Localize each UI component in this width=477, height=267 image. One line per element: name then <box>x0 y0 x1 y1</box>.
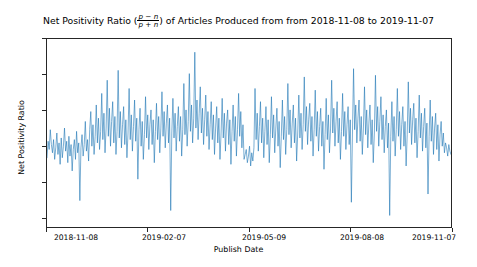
xtick-mark-4 <box>452 228 453 232</box>
xtick-label-0: 2018-11-08 <box>54 233 98 242</box>
xtick-label-1: 2019-02-07 <box>142 233 186 242</box>
xtick-mark-1 <box>147 228 148 232</box>
ytick-mark-1 <box>42 74 46 75</box>
xtick-mark-2 <box>249 228 250 232</box>
chart-title: Net Positivity Ratio (p − np + n) of Art… <box>0 13 477 29</box>
ytick-mark-4 <box>42 182 46 183</box>
x-axis-label: Publish Date <box>0 245 477 254</box>
y-axis-label: Net Positivity Ratio <box>17 73 26 203</box>
xtick-label-3: 2019-08-08 <box>340 233 384 242</box>
ytick-mark-5 <box>42 218 46 219</box>
xtick-label-2: 2019-05-09 <box>242 233 286 242</box>
ytick-mark-0 <box>42 38 46 39</box>
xtick-mark-0 <box>46 228 47 232</box>
chart-figure: Net Positivity Ratio (p − np + n) of Art… <box>0 0 477 267</box>
chart-title-suffix: ) of Articles Produced from from 2018-11… <box>159 15 434 26</box>
chart-title-fraction: p − np + n <box>137 13 159 29</box>
chart-title-prefix: Net Positivity Ratio ( <box>43 15 138 26</box>
xtick-label-4: 2019-11-07 <box>412 233 456 242</box>
ytick-mark-2 <box>42 110 46 111</box>
fraction-denominator: p + n <box>137 21 159 29</box>
plot-area <box>46 38 452 228</box>
series-line-net-positivity-ratio <box>47 39 451 227</box>
ytick-mark-3 <box>42 146 46 147</box>
xtick-mark-3 <box>350 228 351 232</box>
